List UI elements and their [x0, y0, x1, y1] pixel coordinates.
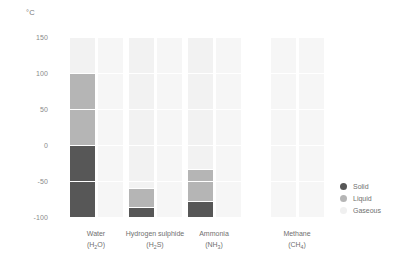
compound-name: Methane [283, 230, 310, 237]
gaseous-band [216, 74, 241, 109]
gaseous-column [299, 38, 324, 218]
legend-swatch-icon [340, 183, 347, 190]
gaseous-band [188, 146, 213, 169]
y-axis-tick-label: 0 [18, 142, 48, 150]
chart-group [271, 38, 324, 218]
gaseous-band [216, 38, 241, 73]
phase-column [188, 38, 213, 218]
gaseous-band [129, 74, 154, 109]
gaseous-column [98, 38, 123, 218]
legend-label: Liquid [353, 195, 372, 202]
chart-group [129, 38, 182, 218]
x-axis-label: Methane(CH4) [242, 228, 352, 251]
gaseous-band [98, 38, 123, 73]
gaseous-band [129, 110, 154, 145]
gaseous-band [271, 182, 296, 217]
gaseous-column [157, 38, 182, 218]
gaseous-column [216, 38, 241, 218]
gaseous-band [271, 38, 296, 73]
legend-item-liquid[interactable]: Liquid [340, 193, 381, 204]
gaseous-band [157, 110, 182, 145]
gaseous-band [188, 38, 213, 73]
gaseous-band [98, 110, 123, 145]
phase-segment-solid [70, 146, 95, 181]
chart-group [70, 38, 123, 218]
gaseous-band [271, 74, 296, 109]
phase-segment-liquid [188, 182, 213, 201]
gaseous-band [98, 74, 123, 109]
y-axis-tick-label: -100 [18, 214, 48, 222]
gaseous-band [216, 182, 241, 217]
compound-name: Ammonia [199, 230, 229, 237]
gaseous-band [299, 182, 324, 217]
chart-legend: SolidLiquidGaseous [340, 181, 381, 217]
gaseous-band [129, 146, 154, 181]
gaseous-band [216, 110, 241, 145]
gaseous-band [299, 74, 324, 109]
gaseous-band [98, 182, 123, 217]
legend-item-gaseous[interactable]: Gaseous [340, 205, 381, 216]
phase-segment-liquid [70, 74, 95, 109]
phase-state-chart: °C 150100500-50-100 Water(H2O)Hydrogen s… [0, 0, 410, 267]
legend-swatch-icon [340, 195, 347, 202]
phase-segment-solid [188, 202, 213, 217]
gaseous-band [188, 110, 213, 145]
phase-segment-liquid [188, 170, 213, 181]
phase-column [271, 38, 296, 218]
plot-area [55, 38, 305, 218]
y-axis-tick-label: 100 [18, 70, 48, 78]
gaseous-band [129, 38, 154, 73]
gaseous-band [216, 146, 241, 181]
y-axis-tick-label: -50 [18, 178, 48, 186]
gaseous-band [299, 110, 324, 145]
phase-column [70, 38, 95, 218]
phase-segment-solid [129, 208, 154, 217]
gaseous-band [271, 146, 296, 181]
gaseous-band [70, 38, 95, 73]
legend-label: Gaseous [353, 207, 381, 214]
phase-segment-liquid [70, 110, 95, 145]
gaseous-band [157, 146, 182, 181]
y-axis-unit-label: °C [26, 8, 35, 17]
phase-column [129, 38, 154, 218]
legend-item-solid[interactable]: Solid [340, 181, 381, 192]
gaseous-band [157, 74, 182, 109]
gaseous-band [299, 146, 324, 181]
gaseous-band [98, 146, 123, 181]
phase-segment-liquid [129, 189, 154, 207]
y-axis-tick-label: 50 [18, 106, 48, 114]
gaseous-band [157, 38, 182, 73]
gaseous-band [157, 182, 182, 217]
phase-segment-solid [70, 182, 95, 217]
gaseous-band [271, 110, 296, 145]
gaseous-band [188, 74, 213, 109]
legend-swatch-icon [340, 207, 347, 214]
gaseous-band [129, 182, 154, 188]
gaseous-band [299, 38, 324, 73]
chart-group [188, 38, 241, 218]
legend-label: Solid [353, 183, 369, 190]
compound-formula: (CH4) [242, 239, 352, 251]
y-axis-tick-label: 150 [18, 34, 48, 42]
